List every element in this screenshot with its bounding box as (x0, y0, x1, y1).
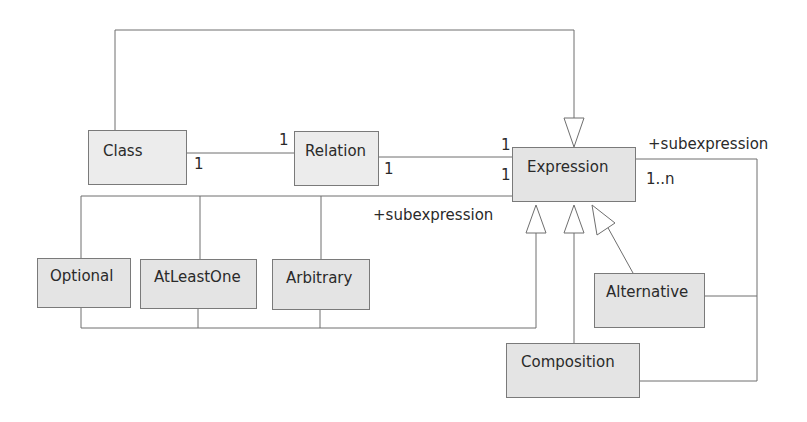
class-name: AtLeastOne (154, 268, 269, 286)
class-to-expression-generalization-line (115, 30, 574, 130)
multiplicity-relation-expr-relation-end: 1 (384, 160, 394, 178)
class-box-relation[interactable]: Relation (294, 131, 379, 186)
class-name: Expression (527, 158, 649, 176)
class-box-atleastone[interactable]: AtLeastOne (140, 259, 257, 309)
unary-generalization-arrowhead (526, 205, 546, 233)
class-name: Relation (305, 142, 388, 160)
class-name: Alternative (606, 283, 715, 301)
multiplicity-relation-end: 1 (279, 131, 289, 149)
nary-association-line (636, 159, 757, 381)
alternative-generalization-arrowhead (592, 205, 615, 235)
class-box-arbitrary[interactable]: Arbitrary (272, 259, 370, 310)
role-nary-subexpression: +subexpression (648, 135, 768, 153)
class-box-class[interactable]: Class (88, 130, 187, 185)
class-box-expression[interactable]: Expression (512, 147, 636, 202)
role-unary-subexpression: +subexpression (373, 206, 493, 224)
class-box-composition[interactable]: Composition (506, 343, 640, 398)
multiplicity-nary: 1..n (646, 170, 675, 188)
multiplicity-unary-expression-end: 1 (501, 166, 511, 184)
class-name: Class (103, 142, 200, 160)
class-box-optional[interactable]: Optional (37, 258, 131, 308)
class-generalization-arrowhead (564, 118, 584, 147)
class-name: Arbitrary (286, 269, 382, 287)
alternative-generalization-line (607, 226, 633, 273)
multiplicity-relation-expr-expression-end: 1 (501, 136, 511, 154)
multiplicity-class-end: 1 (194, 155, 204, 173)
class-box-alternative[interactable]: Alternative (594, 273, 705, 328)
composition-generalization-arrowhead (564, 205, 584, 233)
class-name: Optional (50, 267, 142, 285)
class-name: Composition (521, 353, 653, 371)
